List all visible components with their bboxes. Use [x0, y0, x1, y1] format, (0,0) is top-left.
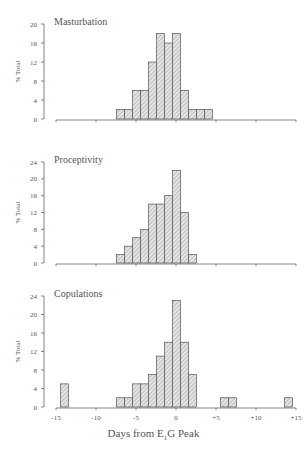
- panel-copulations: 04812162024% TotalCopulations-15-10-50+5…: [14, 288, 302, 422]
- y-tick-label: 4: [34, 385, 38, 393]
- panel-title: Copulations: [54, 288, 102, 299]
- y-tick-label: 0: [34, 260, 38, 268]
- bar: [229, 398, 237, 407]
- y-tick-label: 12: [30, 348, 38, 356]
- bar: [125, 398, 133, 407]
- bar: [149, 62, 157, 119]
- bar: [125, 110, 133, 120]
- y-axis-label: % Total: [14, 202, 22, 224]
- bar: [173, 34, 181, 120]
- bar: [117, 110, 125, 120]
- bar: [189, 375, 197, 407]
- x-axis-label: Days from E1G Peak: [0, 427, 307, 442]
- bar: [141, 91, 149, 120]
- panel-title: Masturbation: [54, 16, 107, 27]
- y-tick-label: 8: [34, 78, 38, 86]
- bar: [61, 384, 69, 407]
- bar: [165, 196, 173, 263]
- y-tick-label: 20: [30, 311, 38, 319]
- bar: [133, 91, 141, 120]
- bar: [205, 110, 213, 120]
- y-tick-label: 20: [30, 175, 38, 183]
- bar: [165, 43, 173, 119]
- x-tick-label: -10: [91, 414, 101, 422]
- bar: [149, 375, 157, 407]
- bar: [157, 204, 165, 263]
- x-tick-label: -5: [133, 414, 139, 422]
- x-axis-label-rest: G Peak: [167, 427, 199, 439]
- y-tick-label: 20: [30, 21, 38, 29]
- y-tick-label: 12: [30, 209, 38, 217]
- panels: 048121620% TotalMasturbation04812162024%…: [14, 16, 302, 422]
- x-axis-label-main: Days from E: [108, 427, 164, 439]
- bar: [117, 255, 125, 263]
- bar: [173, 170, 181, 263]
- bar: [181, 91, 189, 120]
- y-tick-label: 16: [30, 40, 38, 48]
- y-tick-label: 16: [30, 192, 38, 200]
- bar: [181, 213, 189, 264]
- bar: [197, 110, 205, 120]
- y-axis-label: % Total: [14, 341, 22, 363]
- panel-proceptivity: 04812162024% TotalProceptivity: [14, 154, 296, 268]
- y-tick-label: 8: [34, 367, 38, 375]
- x-tick-label: +5: [212, 414, 220, 422]
- y-tick-label: 16: [30, 330, 38, 338]
- bar: [221, 398, 229, 407]
- y-tick-label: 12: [30, 59, 38, 67]
- y-axis-label: % Total: [14, 61, 22, 83]
- y-tick-label: 24: [30, 159, 38, 167]
- bar: [125, 246, 133, 263]
- bar: [173, 301, 181, 407]
- bar: [181, 342, 189, 407]
- y-tick-label: 4: [34, 97, 38, 105]
- bar: [117, 398, 125, 407]
- x-tick-label: 0: [174, 414, 178, 422]
- x-tick-label: +15: [291, 414, 302, 422]
- y-tick-label: 8: [34, 226, 38, 234]
- bar: [149, 204, 157, 263]
- y-tick-label: 4: [34, 243, 38, 251]
- bar: [165, 342, 173, 407]
- bar: [133, 384, 141, 407]
- bar: [133, 238, 141, 263]
- panel-title: Proceptivity: [54, 154, 103, 165]
- x-tick-label: -15: [51, 414, 61, 422]
- bar: [141, 384, 149, 407]
- y-tick-label: 0: [34, 404, 38, 412]
- bar: [189, 255, 197, 263]
- bar: [141, 229, 149, 263]
- y-tick-label: 0: [34, 116, 38, 124]
- figure: 048121620% TotalMasturbation04812162024%…: [0, 0, 307, 451]
- x-tick-label: +10: [251, 414, 262, 422]
- bar: [285, 398, 293, 407]
- bar: [189, 110, 197, 120]
- y-tick-label: 24: [30, 293, 38, 301]
- panel-masturbation: 048121620% TotalMasturbation: [14, 16, 296, 124]
- bar: [157, 356, 165, 407]
- bar: [157, 34, 165, 120]
